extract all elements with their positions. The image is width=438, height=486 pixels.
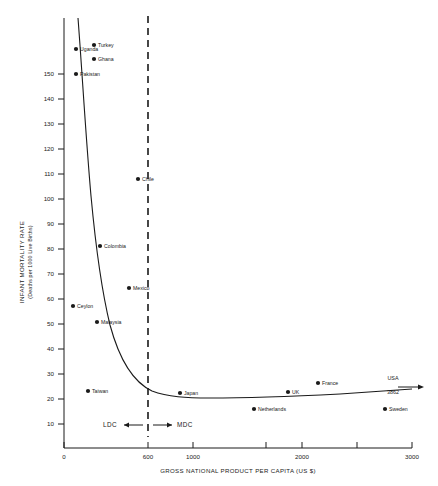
point-label: Sweden — [389, 406, 408, 412]
usa-value-label: 3862 — [387, 389, 399, 395]
point-label: Malaysia — [101, 319, 122, 325]
data-point-malaysia[interactable]: Malaysia — [95, 319, 122, 325]
x-tick-label-3000: 3000 — [405, 453, 419, 460]
y-tick-label-90: 90 — [47, 220, 54, 227]
x-tick-label-600: 600 — [143, 453, 154, 460]
point-marker — [74, 72, 78, 76]
point-marker — [74, 47, 78, 51]
point-marker — [252, 407, 256, 411]
data-point-ghana[interactable]: Ghana — [92, 56, 114, 62]
data-point-netherlands[interactable]: Netherlands — [252, 406, 286, 412]
point-marker — [92, 57, 96, 61]
infant-mortality-gnp-chart: 150 140 130 120 110 100 90 80 70 60 50 4… — [0, 0, 438, 486]
point-marker — [95, 320, 99, 324]
y-axis-title: INFANT MORTALITY RATE — [18, 221, 25, 303]
chart-canvas: 150 140 130 120 110 100 90 80 70 60 50 4… — [0, 0, 438, 486]
data-point-chile[interactable]: Chile — [136, 176, 154, 182]
usa-label: USA — [387, 375, 398, 381]
point-label: Ghana — [98, 56, 114, 62]
y-axis-subtitle: (Deaths per 1000 Live Births) — [27, 225, 33, 298]
mdc-arrowhead — [167, 423, 172, 428]
x-axis-title: GROSS NATIONAL PRODUCT PER CAPITA (US $) — [160, 467, 316, 474]
point-marker — [86, 389, 90, 393]
y-tick-label-60: 60 — [47, 295, 54, 302]
point-label: UK — [292, 389, 300, 395]
y-tick-label-120: 120 — [44, 145, 55, 152]
usa-arrowhead — [418, 384, 424, 389]
point-marker — [127, 286, 131, 290]
point-label: Chile — [142, 176, 154, 182]
point-marker — [286, 390, 290, 394]
usa-annotation[interactable]: USA 3862 — [387, 375, 424, 395]
data-point-sweden[interactable]: Sweden — [383, 406, 408, 412]
point-marker — [178, 391, 182, 395]
x-tick-label-2000: 2000 — [295, 453, 309, 460]
ldc-label: LDC — [103, 421, 117, 428]
data-point-ceylon[interactable]: Ceylon — [71, 303, 93, 309]
x-tick-label-1000: 1000 — [186, 453, 200, 460]
point-marker — [316, 381, 320, 385]
point-label: France — [322, 380, 338, 386]
y-tick-label-70: 70 — [47, 270, 54, 277]
point-marker — [92, 43, 96, 47]
data-point-pakistan[interactable]: Pakistan — [74, 71, 100, 77]
point-label: Uganda — [80, 46, 98, 52]
data-point-japan[interactable]: Japan — [178, 390, 198, 396]
y-tick-label-110: 110 — [44, 170, 54, 177]
y-tick-label-140: 140 — [44, 95, 55, 102]
point-label: Japan — [184, 390, 198, 396]
y-tick-label-30: 30 — [47, 370, 54, 377]
point-marker — [383, 407, 387, 411]
y-tick-label-40: 40 — [47, 345, 54, 352]
point-marker — [136, 177, 140, 181]
point-label: Colombia — [104, 243, 126, 249]
axes-group — [64, 18, 412, 448]
data-point-france[interactable]: France — [316, 380, 338, 386]
point-label: Taiwan — [92, 388, 108, 394]
y-axis-ticks: 150 140 130 120 110 100 90 80 70 60 50 4… — [44, 70, 64, 427]
y-tick-label-130: 130 — [44, 120, 55, 127]
point-marker — [98, 244, 102, 248]
mdc-label: MDC — [177, 421, 193, 428]
x-tick-label-0: 0 — [62, 453, 66, 460]
y-tick-label-20: 20 — [47, 395, 54, 402]
point-label: Mexico — [133, 285, 150, 291]
y-tick-label-100: 100 — [44, 195, 55, 202]
data-point-colombia[interactable]: Colombia — [98, 243, 126, 249]
point-label: Ceylon — [77, 303, 93, 309]
y-tick-label-150: 150 — [44, 70, 55, 77]
point-label: Turkey — [98, 42, 114, 48]
y-tick-label-10: 10 — [47, 420, 54, 427]
ldc-arrowhead — [124, 423, 129, 428]
y-tick-label-50: 50 — [47, 320, 54, 327]
point-marker — [71, 304, 75, 308]
x-axis-ticks: 0 600 1000 2000 3000 — [62, 442, 419, 460]
data-point-uk[interactable]: UK — [286, 389, 300, 395]
point-label: Netherlands — [258, 406, 286, 412]
y-tick-label-80: 80 — [47, 245, 54, 252]
trend-curve — [78, 18, 412, 398]
point-label: Pakistan — [80, 71, 100, 77]
data-point-mexico[interactable]: Mexico — [127, 285, 150, 291]
data-point-taiwan[interactable]: Taiwan — [86, 388, 108, 394]
